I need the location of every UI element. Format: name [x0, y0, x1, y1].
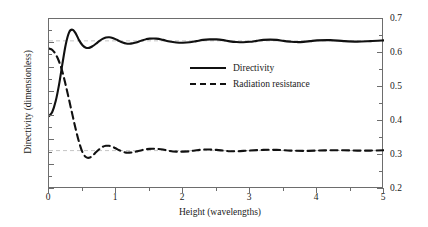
tick-y-right-0.6: [377, 52, 383, 53]
tick-y-left-5: [48, 67, 54, 68]
tick-y-left-2: [48, 139, 54, 140]
tick-label-y-right-0.4: 0.4: [390, 115, 402, 125]
curves-svg: [49, 19, 384, 189]
tick-y-right-0.7: [377, 18, 383, 19]
tick-y-left-minor-2.5: [48, 127, 52, 128]
tick-y-left-1: [48, 164, 54, 165]
tick-y-left-7: [48, 18, 54, 19]
legend-label-directivity: Directivity: [233, 63, 274, 73]
tick-y-left-minor-1.5: [48, 152, 52, 153]
tick-y-left-3: [48, 115, 54, 116]
tick-y-right-minor-0.55: [379, 69, 383, 70]
tick-x-minor-0.5: [82, 188, 83, 191]
legend-line-solid-icon: [190, 63, 226, 73]
tick-label-x-2: 2: [167, 192, 197, 202]
legend-label-radiation-resistance: Radiation resistance: [233, 79, 310, 89]
tick-y-right-0.5: [377, 86, 383, 87]
tick-y-right-minor-0.35: [379, 137, 383, 138]
plot-area: [48, 18, 383, 188]
tick-y-right-minor-0.25: [379, 171, 383, 172]
tick-label-y-right-0.7: 0.7: [390, 13, 402, 23]
tick-label-x-3: 3: [234, 192, 264, 202]
tick-y-left-4: [48, 91, 54, 92]
tick-x-minor-1.5: [149, 188, 150, 191]
legend-item-radiation-resistance: Radiation resistance: [190, 76, 310, 92]
chart-figure: 012345670.20.30.40.50.60.7012345 Directi…: [0, 0, 428, 227]
tick-label-x-0: 0: [33, 192, 63, 202]
legend-item-directivity: Directivity: [190, 60, 310, 76]
tick-y-left-minor-0.5: [48, 176, 52, 177]
tick-y-left-minor-4.5: [48, 79, 52, 80]
tick-label-y-right-0.6: 0.6: [390, 47, 402, 57]
x-axis-title: Height (wavelengths): [150, 207, 290, 217]
tick-y-right-0.3: [377, 154, 383, 155]
tick-y-left-6: [48, 42, 54, 43]
chart-legend: Directivity Radiation resistance: [190, 60, 310, 92]
tick-y-right-minor-0.65: [379, 35, 383, 36]
tick-y-left-minor-5.5: [48, 54, 52, 55]
tick-label-y-right-0.3: 0.3: [390, 149, 402, 159]
tick-x-minor-4.5: [350, 188, 351, 191]
tick-y-left-minor-3.5: [48, 103, 52, 104]
tick-x-minor-2.5: [216, 188, 217, 191]
tick-label-x-1: 1: [100, 192, 130, 202]
tick-x-minor-3.5: [283, 188, 284, 191]
data-series: [49, 30, 384, 158]
tick-label-x-5: 5: [368, 192, 398, 202]
y-axis-title-left: Directivity (dimensionless): [23, 22, 33, 182]
legend-line-dashed-icon: [190, 79, 226, 89]
tick-label-y-right-0.5: 0.5: [390, 81, 402, 91]
tick-label-x-4: 4: [301, 192, 331, 202]
tick-y-right-0.4: [377, 120, 383, 121]
reference-lines: [49, 41, 384, 151]
tick-y-left-minor-6.5: [48, 30, 52, 31]
tick-y-right-minor-0.45: [379, 103, 383, 104]
